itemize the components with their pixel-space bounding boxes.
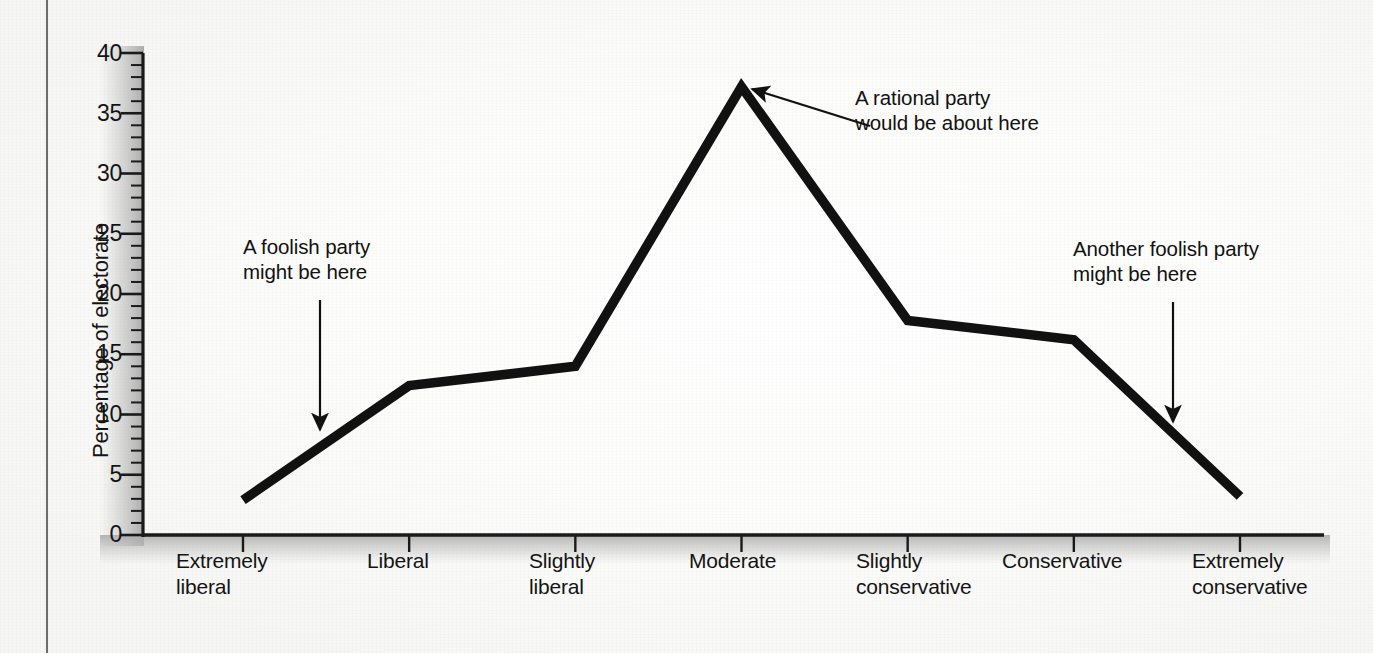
annotation-foolish-left: A foolish party might be here — [243, 234, 370, 284]
figure-page: Percentage of electorate 0 5 10 15 20 25… — [0, 0, 1373, 653]
x-tick-label-extremely-conservative: Extremely conservative — [1192, 548, 1373, 599]
x-tick-label-extremely-liberal: Extremely liberal — [176, 548, 351, 599]
y-tick-label-25: 25 — [74, 220, 122, 247]
y-tick-label-15: 15 — [74, 340, 122, 367]
y-tick-label-10: 10 — [74, 401, 122, 428]
data-series-line — [243, 87, 1240, 500]
y-tick-label-40: 40 — [74, 40, 122, 67]
y-tick-label-30: 30 — [74, 160, 122, 187]
annotation-rational-center: A rational party would be about here — [855, 85, 1039, 135]
axis-lines — [142, 53, 1324, 537]
x-tick-label-moderate: Moderate — [689, 548, 844, 574]
annotation-foolish-right: Another foolish party might be here — [1073, 236, 1259, 286]
y-tick-label-0: 0 — [74, 521, 122, 548]
y-tick-label-35: 35 — [74, 100, 122, 127]
x-tick-label-conservative: Conservative — [1002, 548, 1182, 574]
x-tick-label-liberal: Liberal — [367, 548, 507, 574]
x-tick-label-slightly-liberal: Slightly liberal — [529, 548, 669, 599]
y-tick-label-5: 5 — [74, 461, 122, 488]
y-tick-label-20: 20 — [74, 280, 122, 307]
